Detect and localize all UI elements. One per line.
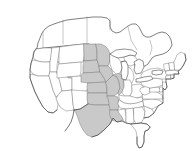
- state-alabama: [126, 108, 134, 124]
- state-north-dakota: [84, 44, 97, 61]
- state-washington: [33, 48, 52, 62]
- state-connecticut: [166, 75, 171, 79]
- state-rhode-island: [171, 75, 174, 78]
- state-maine: [174, 52, 186, 70]
- state-delaware: [160, 87, 163, 92]
- state-montana: [59, 44, 84, 64]
- map-container: United States choropleth map Outline map…: [0, 0, 192, 151]
- lake-michigan: [121, 61, 128, 80]
- lake-huron: [134, 59, 144, 74]
- state-georgia: [134, 107, 145, 124]
- western-states-group: [30, 44, 88, 113]
- state-florida: [131, 123, 150, 148]
- state-oregon: [30, 60, 50, 76]
- state-oklahoma: [87, 93, 110, 105]
- state-wyoming: [57, 62, 81, 78]
- state-kansas: [87, 82, 107, 93]
- north-america-map: United States choropleth map Outline map…: [0, 0, 192, 151]
- lake-ontario: [152, 70, 163, 75]
